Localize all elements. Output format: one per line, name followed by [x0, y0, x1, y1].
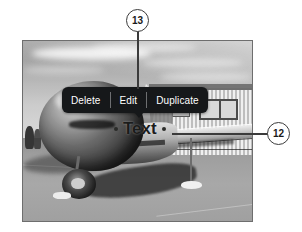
context-menu-item-duplicate[interactable]: Duplicate	[147, 87, 208, 113]
cloud-shape	[23, 66, 105, 74]
selection-handle-left[interactable]	[114, 127, 118, 131]
callout-leader-line-13	[137, 31, 139, 89]
context-menu-item-edit[interactable]: Edit	[111, 87, 147, 113]
callout-marker-12: 12	[267, 122, 290, 145]
cloud-shape	[142, 58, 243, 68]
text-object-label: Text	[121, 120, 159, 137]
aircraft-strut-foot	[181, 181, 202, 188]
context-menu-label-edit: Edit	[120, 95, 138, 106]
context-menu[interactable]: Delete Edit Duplicate	[62, 87, 208, 113]
propeller-hub	[69, 120, 115, 129]
selection-handle-right[interactable]	[162, 127, 166, 131]
callout-number-12: 12	[273, 128, 284, 139]
callout-marker-13: 13	[126, 9, 149, 32]
aircraft-strut	[190, 138, 192, 185]
wheel-hub	[71, 178, 85, 189]
wheel-chock	[53, 192, 71, 199]
cloud-shape	[160, 72, 252, 81]
context-menu-label-duplicate: Duplicate	[156, 95, 199, 106]
selected-text-object[interactable]: Text	[114, 120, 166, 137]
context-menu-pointer-triangle	[134, 112, 144, 118]
callout-number-13: 13	[132, 15, 143, 26]
background-person	[25, 126, 34, 149]
context-menu-label-delete: Delete	[71, 95, 101, 106]
callout-leader-line-12	[172, 133, 268, 135]
figure-root: Delete Edit Duplicate Text 13 12	[0, 0, 302, 232]
context-menu-item-delete[interactable]: Delete	[62, 87, 110, 113]
